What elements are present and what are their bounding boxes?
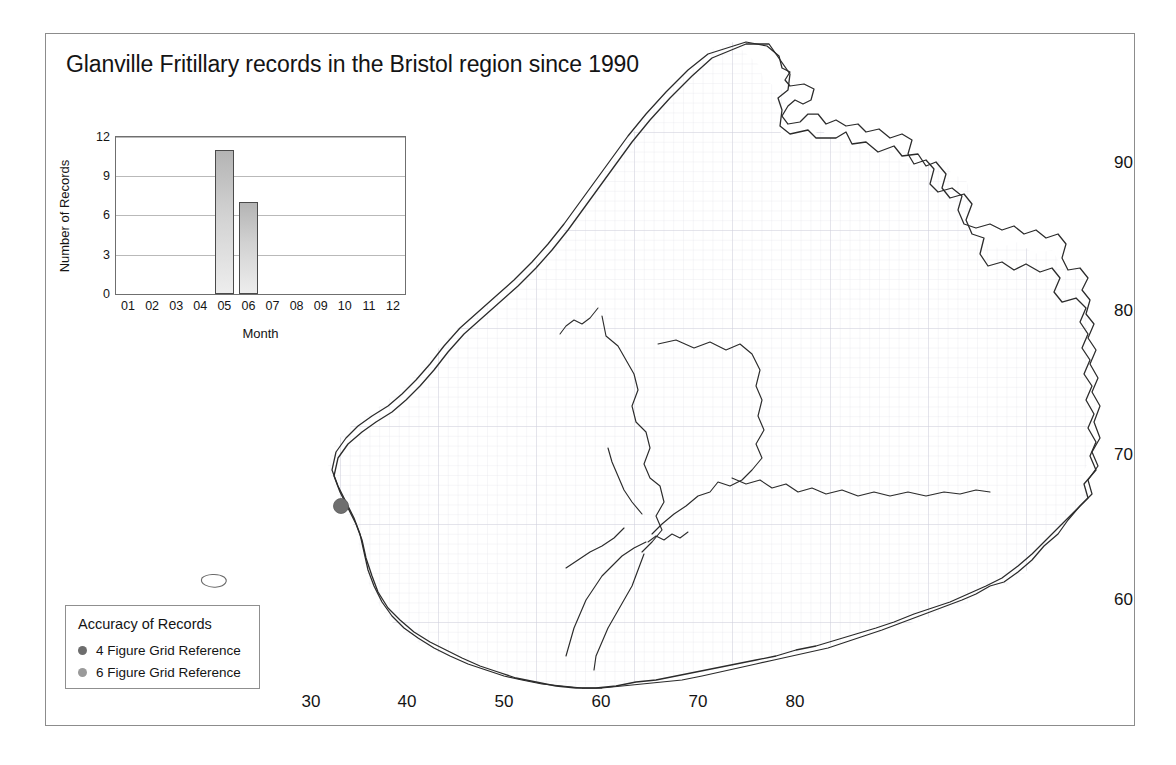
y-tick-3: 3: [103, 248, 110, 262]
grid-line-3: [116, 255, 405, 256]
bar-month-06: [239, 202, 258, 294]
legend-title: Accuracy of Records: [78, 616, 259, 632]
legend-dot-icon: [78, 646, 87, 655]
grid-line-6: [116, 215, 405, 216]
legend-item-label: 4 Figure Grid Reference: [96, 643, 241, 658]
chart-plot-area: 12 9 6 3 0 010203040506070809101112: [115, 136, 406, 295]
x-tick-05: 05: [217, 299, 231, 313]
x-tick-08: 08: [290, 299, 304, 313]
x-tick-07: 07: [266, 299, 280, 313]
record-marker-1: [334, 499, 349, 514]
map-x-tick-70: 70: [689, 692, 708, 712]
map-x-tick-60: 60: [592, 692, 611, 712]
legend-item-4-figure[interactable]: 4 Figure Grid Reference: [78, 639, 259, 661]
legend-item-label: 6 Figure Grid Reference: [96, 665, 241, 680]
inset-bar-chart: Number of Records 12 9 6 3 0 01020304050…: [58, 121, 418, 366]
x-tick-12: 12: [386, 299, 400, 313]
x-tick-01: 01: [121, 299, 135, 313]
legend-dot-icon: [78, 668, 87, 677]
x-tick-04: 04: [193, 299, 207, 313]
map-x-tick-50: 50: [495, 692, 514, 712]
record-markers: [334, 499, 349, 514]
page-title: Glanville Fritillary records in the Bris…: [66, 51, 639, 78]
grid-line-9: [116, 176, 405, 177]
y-tick-0: 0: [103, 287, 110, 301]
map-y-tick-90: 90: [1114, 153, 1133, 173]
legend-item-6-figure[interactable]: 6 Figure Grid Reference: [78, 661, 259, 683]
map-y-tick-70: 70: [1114, 445, 1133, 465]
y-tick-9: 9: [103, 169, 110, 183]
map-y-tick-80: 80: [1114, 301, 1133, 321]
map-x-tick-40: 40: [398, 692, 417, 712]
y-tick-12: 12: [96, 130, 110, 144]
map-x-tick-80: 80: [786, 692, 805, 712]
x-tick-06: 06: [242, 299, 256, 313]
figure-frame: Glanville Fritillary records in the Bris…: [45, 33, 1135, 726]
x-tick-09: 09: [314, 299, 328, 313]
grid-line-12: [116, 137, 405, 138]
figure-canvas: Glanville Fritillary records in the Bris…: [0, 0, 1176, 765]
x-tick-02: 02: [145, 299, 159, 313]
y-tick-6: 6: [103, 208, 110, 222]
offshore-island: [201, 574, 226, 587]
chart-y-axis-label: Number of Records: [57, 160, 72, 273]
x-tick-03: 03: [169, 299, 183, 313]
legend-box: Accuracy of Records 4 Figure Grid Refere…: [65, 605, 260, 689]
map-y-tick-60: 60: [1114, 590, 1133, 610]
chart-x-axis-label: Month: [115, 326, 406, 341]
x-tick-11: 11: [362, 299, 375, 313]
map-x-tick-30: 30: [302, 692, 321, 712]
x-tick-10: 10: [338, 299, 352, 313]
bar-month-05: [215, 150, 234, 294]
